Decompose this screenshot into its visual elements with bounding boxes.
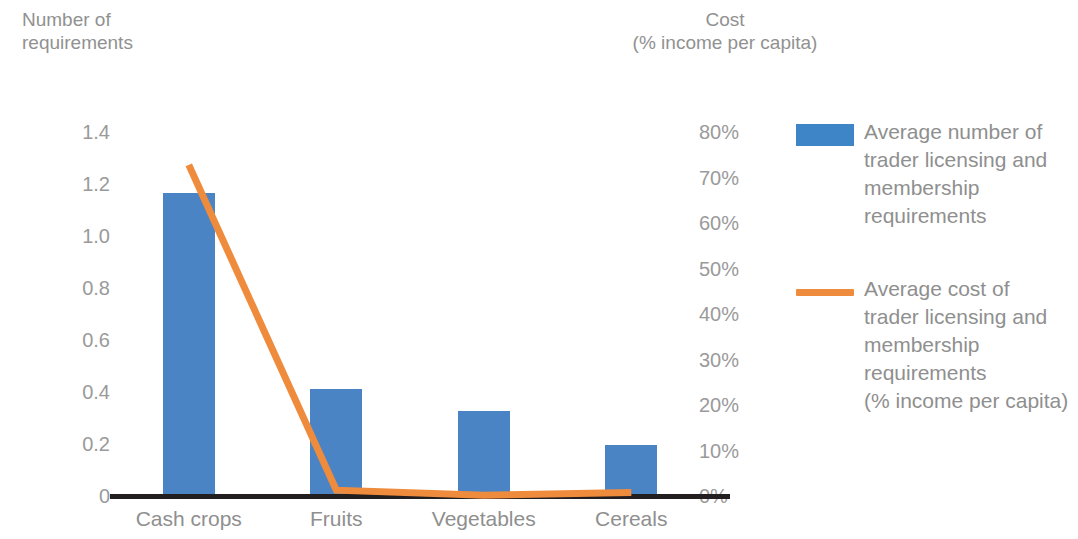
right-tick-label: 10% [699, 441, 739, 461]
left-axis-ticks: 1.41.21.00.80.60.40.20 [30, 0, 110, 539]
plot-area [115, 60, 705, 497]
legend-label-bar-series: Average number of trader licensing and m… [858, 118, 1047, 230]
right-tick-label: 50% [699, 259, 739, 279]
right-tick-label: 60% [699, 213, 739, 233]
left-tick-label: 1.4 [82, 122, 110, 142]
legend-item-bar-series: Average number of trader licensing and m… [796, 118, 1078, 230]
left-tick-label: 0 [99, 486, 110, 506]
legend-label-line-series: Average cost of trader licensing and mem… [858, 275, 1068, 415]
line-swatch-icon [796, 289, 854, 296]
left-tick-label: 1.2 [82, 174, 110, 194]
category-label: Vegetables [432, 506, 536, 532]
right-axis-ticks: 80%70%60%50%40%30%20%10%0% [699, 0, 789, 539]
bar-vegetables [458, 411, 510, 497]
x-axis-line [110, 494, 730, 499]
left-tick-label: 0.6 [82, 330, 110, 350]
left-tick-label: 1.0 [82, 226, 110, 246]
legend-swatch-container [796, 118, 858, 146]
right-tick-label: 30% [699, 350, 739, 370]
category-label: Cash crops [136, 506, 242, 532]
legend-item-line-series: Average cost of trader licensing and mem… [796, 275, 1078, 415]
right-tick-label: 70% [699, 168, 739, 188]
bar-fruits [310, 389, 362, 497]
chart-legend: Average number of trader licensing and m… [796, 118, 1078, 415]
right-tick-label: 20% [699, 395, 739, 415]
bar-cereals [605, 445, 657, 497]
left-tick-label: 0.8 [82, 278, 110, 298]
left-tick-label: 0.4 [82, 382, 110, 402]
bar-cash-crops [163, 193, 215, 497]
x-axis-category-labels: Cash cropsFruitsVegetablesCereals [115, 506, 705, 539]
right-tick-label: 40% [699, 304, 739, 324]
right-tick-label: 80% [699, 122, 739, 142]
legend-swatch-container [796, 275, 858, 296]
chart-figure: Number of requirements Cost (% income pe… [0, 0, 1078, 539]
category-label: Cereals [595, 506, 667, 532]
category-label: Fruits [310, 506, 363, 532]
left-tick-label: 0.2 [82, 434, 110, 454]
bar-swatch-icon [796, 124, 854, 146]
